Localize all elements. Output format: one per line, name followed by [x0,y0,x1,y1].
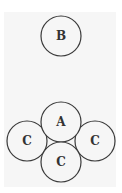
circle-b-label: B [56,29,66,43]
circle-c-left-label: C [22,134,32,148]
circle-diagram: B A C C C [0,0,122,193]
top-group: B [41,16,81,56]
bottom-group: A C C C [7,102,115,182]
circle-a-label: A [55,115,66,129]
circle-c-right-label: C [90,134,100,148]
circle-c-bottom-label: C [56,155,66,169]
